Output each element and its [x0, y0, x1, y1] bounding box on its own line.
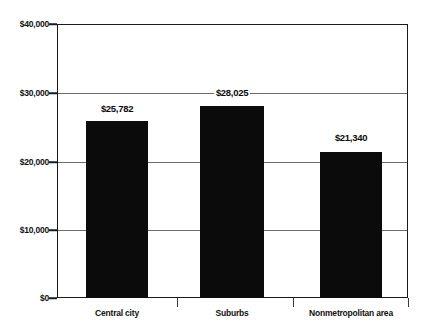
clipped-header-text	[86, 0, 306, 5]
y-tick-mark-20000	[49, 161, 57, 163]
value-label-nonmetropolitan-area: $21,340	[333, 133, 369, 143]
y-tick-label-10000: $10,000	[20, 226, 49, 235]
y-tick-mark-0	[49, 297, 57, 299]
bar-chart: $40,000 $30,000 $20,000 $10,000 $0 $25,7…	[0, 0, 428, 334]
y-tick-mark-10000	[49, 229, 57, 231]
y-tick-label-40000: $40,000	[20, 20, 49, 29]
y-tick-mark-30000	[49, 92, 57, 94]
value-label-suburbs: $28,025	[214, 88, 250, 98]
y-axis: $40,000 $30,000 $20,000 $10,000 $0	[0, 0, 49, 334]
x-tick-mark-3	[408, 298, 409, 307]
y-tick-label-20000: $20,000	[20, 158, 49, 167]
value-label-central-city: $25,782	[99, 104, 135, 114]
y-tick-label-30000: $30,000	[20, 89, 49, 98]
y-tick-label-0: $0	[40, 294, 49, 303]
x-tick-mark-2	[293, 298, 294, 307]
bar-nonmetropolitan-area[interactable]	[320, 152, 382, 298]
bar-central-city[interactable]	[86, 121, 148, 298]
x-axis-label-suburbs: Suburbs	[215, 309, 248, 318]
x-tick-mark-1	[177, 298, 178, 307]
bars-layer	[57, 24, 408, 298]
y-tick-mark-40000	[49, 23, 57, 25]
x-axis-label-nonmetropolitan-area: Nonmetropolitan area	[309, 309, 393, 318]
x-axis-label-central-city: Central city	[95, 309, 139, 318]
bar-suburbs[interactable]	[200, 106, 264, 298]
